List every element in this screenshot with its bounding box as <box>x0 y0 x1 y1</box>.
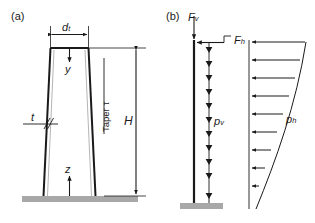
horizontal-force-symbol: F <box>234 34 241 46</box>
taper-label: Taper τ <box>101 102 111 132</box>
panel-b-tag: (b) <box>166 11 179 22</box>
horizontal-force-subscript: h <box>241 37 245 46</box>
ground-strip-b <box>180 203 223 209</box>
top-diameter-label: dt <box>62 18 70 34</box>
vertical-force-subscript: v <box>195 14 199 23</box>
pressure-arrows <box>252 42 305 186</box>
vertical-force-symbol: F <box>188 11 195 23</box>
tower-outer-wall-left <box>44 48 51 196</box>
vertical-force-label: Fv <box>188 8 198 24</box>
pressure-envelope-curve <box>256 42 306 209</box>
panel-a-tag: (a) <box>11 11 24 22</box>
horizontal-force-label: Fh <box>234 31 245 47</box>
wall-thickness-label: t <box>31 112 34 123</box>
vertical-load-subscript: v <box>220 118 224 127</box>
horizontal-pressure-subscript: h <box>292 116 296 125</box>
tower-outer-wall-right <box>89 48 96 196</box>
vertical-load-label: pv <box>214 112 224 128</box>
engineering-figure: (a) dt y z t Taper τ H (b) Fv Fh pv ph <box>0 0 315 223</box>
figure-svg <box>0 0 315 223</box>
z-axis-label: z <box>65 164 71 175</box>
y-axis-label: y <box>65 64 71 75</box>
ground-strip-a <box>22 196 138 202</box>
height-label: H <box>124 115 133 127</box>
horizontal-pressure-label: ph <box>286 110 296 126</box>
top-diameter-subscript: t <box>68 24 70 33</box>
